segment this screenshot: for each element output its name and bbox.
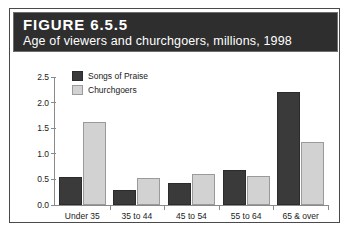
x-axis-tick-mark [219,205,220,210]
x-axis-tick-label: 55 to 64 [219,211,274,221]
legend-entry: Churchgoers [72,83,148,96]
legend-swatch [72,85,83,95]
y-axis-tick: 0.0 [10,200,60,210]
bar-group [168,76,215,205]
legend-label: Songs of Praise [88,71,148,81]
bar [113,190,136,205]
y-axis-tick-label: 0.0 [37,200,49,210]
x-axis-tick-mark [273,205,274,210]
y-axis-tick-label: 1.0 [37,149,49,159]
legend-label: Churchgoers [88,85,137,95]
y-axis-tick-label: 1.5 [37,123,49,133]
x-axis-tick-label: 35 to 44 [110,211,165,221]
y-axis-tick: 0.5 [10,174,60,184]
legend-swatch [72,71,83,81]
bar [277,92,300,205]
bar [59,177,82,205]
x-axis-tick-label: 65 & over [273,211,328,221]
figure-frame: FIGURE 6.5.5 Age of viewers and churchgo… [9,8,340,223]
bar-group [277,76,324,205]
bar-group [223,76,270,205]
bar [247,176,270,205]
x-axis-tick-mark [110,205,111,210]
bar [137,178,160,205]
y-axis-tick-label: 0.5 [37,174,49,184]
y-axis-tick: 2.0 [10,98,60,108]
x-axis-tick-label: Under 35 [55,211,110,221]
chart-plot-area: 0.00.51.01.52.02.5 Under 3535 to 4445 to… [10,53,341,222]
y-axis-tick: 1.5 [10,123,60,133]
y-axis-tick-label: 2.0 [37,98,49,108]
y-axis-tick: 2.5 [10,72,60,82]
chart-legend: Songs of PraiseChurchgoers [72,69,148,97]
y-axis-tick-label: 2.5 [37,72,49,82]
x-axis-tick-label: 45 to 54 [164,211,219,221]
x-axis-tick-mark [328,205,329,210]
legend-entry: Songs of Praise [72,69,148,82]
figure-header: FIGURE 6.5.5 Age of viewers and churchgo… [13,12,338,52]
bar [192,174,215,205]
bar [223,170,246,205]
bar [301,142,324,205]
figure-subtitle: Age of viewers and churchgoers, millions… [23,33,337,50]
y-axis-tick: 1.0 [10,149,60,159]
bar [168,183,191,205]
x-axis-tick-mark [164,205,165,210]
bar [83,122,106,205]
figure-title: FIGURE 6.5.5 [23,16,337,33]
